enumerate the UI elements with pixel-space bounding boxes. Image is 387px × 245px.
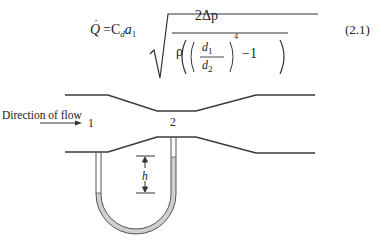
equation-rhs: =Cda1 <box>103 22 136 39</box>
venturi-bottom-wall <box>65 137 315 153</box>
minus-one: −1 <box>242 46 257 62</box>
flow-arrow <box>40 121 82 126</box>
rho-symbol: ρ <box>176 44 183 60</box>
equation-number: (2.1) <box>345 22 370 38</box>
venturi-top-wall <box>65 95 315 111</box>
section-2-label: 2 <box>170 116 176 128</box>
direction-of-flow-label: Direction of flow <box>2 109 82 121</box>
d1-term: d1 <box>202 40 213 56</box>
square-root-sign <box>148 10 323 82</box>
flow-rate-symbol: ˙ Q <box>90 22 100 38</box>
equation-block: ˙ Q =Cda1 2Δp ρ d1 d2 4 −1 (2.1) <box>0 0 387 82</box>
venturi-diagram <box>0 82 387 245</box>
exponent: 4 <box>234 32 238 41</box>
section-1-label: 1 <box>88 117 94 129</box>
d2-term: d2 <box>202 58 213 74</box>
numerator: 2Δp <box>195 8 218 24</box>
height-label: h <box>142 170 148 182</box>
